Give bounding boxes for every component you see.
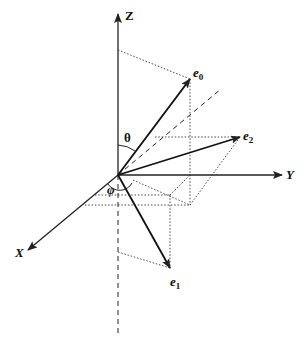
theta-arc — [118, 145, 135, 151]
e1-label: e1 — [170, 275, 180, 291]
e0-label: e0 — [193, 66, 203, 82]
projection-lines — [85, 50, 240, 268]
y-axis-label: Y — [286, 168, 294, 181]
vector-e0 — [118, 79, 190, 175]
theta-label: θ — [124, 131, 131, 144]
vector-e2 — [118, 137, 240, 175]
phi-label: φ — [107, 183, 115, 196]
diagram-svg — [0, 0, 306, 346]
diagram-canvas: Z Y X e0 e2 e1 θ φ — [0, 0, 306, 346]
diagonal-dashed-line — [118, 89, 221, 175]
z-axis-label: Z — [125, 9, 134, 22]
x-axis — [28, 175, 118, 250]
e2-label: e2 — [243, 129, 253, 145]
x-axis-label: X — [15, 246, 24, 259]
